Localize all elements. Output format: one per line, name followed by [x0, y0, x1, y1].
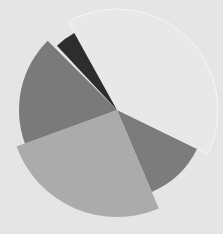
- chart-sectors: [16, 9, 218, 217]
- polar-pie-chart: [0, 0, 223, 234]
